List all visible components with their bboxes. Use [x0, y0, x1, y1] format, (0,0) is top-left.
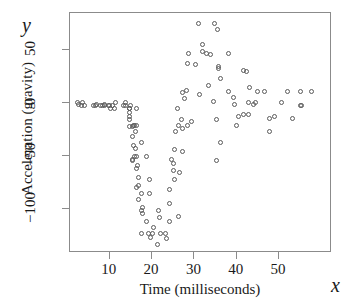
y-tick-mark — [62, 102, 69, 103]
x-tick-label: 20 — [131, 261, 171, 278]
x-tick-label: 40 — [216, 261, 256, 278]
data-point — [185, 61, 190, 66]
data-point — [200, 42, 205, 47]
data-point — [218, 140, 223, 145]
data-point — [231, 95, 236, 100]
data-point — [156, 208, 161, 213]
data-point — [172, 177, 177, 182]
data-point — [139, 231, 144, 236]
x-tick-mark — [236, 252, 237, 259]
data-point — [157, 215, 162, 220]
x-tick-mark — [151, 252, 152, 259]
data-point — [167, 219, 172, 224]
data-point — [290, 116, 295, 121]
data-point — [197, 92, 202, 97]
data-point — [299, 103, 304, 108]
x-axis-symbol: x — [331, 274, 340, 297]
y-tick-label: −100 — [22, 177, 39, 237]
data-point — [127, 110, 132, 115]
x-tick-label: 30 — [173, 261, 213, 278]
data-point — [150, 231, 155, 236]
y-tick-mark — [62, 208, 69, 209]
x-tick-label: 50 — [258, 261, 298, 278]
y-tick-label: −50 — [22, 124, 39, 184]
y-tick-mark — [62, 155, 69, 156]
data-point — [298, 89, 303, 94]
x-tick-mark — [109, 252, 110, 259]
data-point — [185, 123, 190, 128]
data-point — [247, 85, 252, 90]
data-point — [193, 62, 198, 67]
data-point — [279, 100, 284, 105]
data-point — [215, 27, 220, 32]
data-point — [133, 129, 138, 134]
data-point — [272, 114, 277, 119]
data-point — [218, 76, 223, 81]
data-point — [155, 242, 160, 247]
data-point — [285, 89, 290, 94]
data-point — [171, 168, 176, 173]
data-point — [232, 102, 237, 107]
y-tick-mark — [62, 49, 69, 50]
data-point — [171, 161, 176, 166]
data-point — [140, 211, 145, 216]
data-point — [139, 191, 144, 196]
plot-area — [69, 12, 331, 252]
data-point — [134, 154, 139, 159]
data-point — [211, 99, 216, 104]
x-tick-mark — [193, 252, 194, 259]
data-point — [184, 88, 189, 93]
data-point — [167, 201, 172, 206]
x-tick-mark — [278, 252, 279, 259]
x-tick-label: 10 — [89, 261, 129, 278]
data-point — [133, 146, 138, 151]
data-point — [151, 225, 156, 230]
data-point — [140, 205, 145, 210]
data-point — [214, 117, 219, 122]
data-point — [134, 106, 139, 111]
data-point — [147, 177, 152, 182]
data-point — [136, 175, 141, 180]
data-point — [208, 52, 213, 57]
y-tick-label: 50 — [22, 19, 39, 79]
data-point — [216, 66, 221, 71]
data-point — [244, 69, 249, 74]
data-point — [309, 89, 314, 94]
x-axis-label: Time (milliseconds) — [69, 281, 331, 298]
data-point — [212, 21, 217, 26]
data-point — [172, 147, 177, 152]
data-point — [206, 83, 211, 88]
data-point — [246, 112, 251, 117]
data-point — [214, 158, 219, 163]
data-point — [127, 117, 132, 122]
data-point — [130, 134, 135, 139]
data-point — [163, 231, 168, 236]
data-point — [144, 154, 149, 159]
data-points-layer — [70, 13, 330, 251]
data-point — [196, 21, 201, 26]
data-point — [226, 51, 231, 56]
data-point — [176, 214, 181, 219]
data-point — [130, 158, 135, 163]
data-point — [186, 51, 191, 56]
y-tick-label: 0 — [22, 71, 39, 131]
scatter-plot-figure: y x Acceleration (gravity) Time (millise… — [0, 0, 348, 302]
data-point — [136, 183, 141, 188]
data-point — [267, 129, 272, 134]
data-point — [164, 236, 169, 241]
data-point — [182, 96, 187, 101]
data-point — [262, 89, 267, 94]
data-point — [226, 89, 231, 94]
data-point — [167, 187, 172, 192]
data-point — [189, 119, 194, 124]
data-point — [128, 103, 133, 108]
data-point — [112, 106, 117, 111]
data-point — [148, 235, 153, 240]
data-point — [134, 123, 139, 128]
data-point — [144, 219, 149, 224]
data-point — [180, 149, 185, 154]
data-point — [173, 129, 178, 134]
data-point — [234, 123, 239, 128]
data-point — [136, 197, 141, 202]
data-point — [82, 103, 87, 108]
